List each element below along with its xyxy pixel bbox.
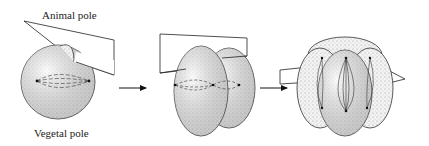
stage-2-two-cell [160,34,255,136]
stage-1-zygote [21,21,114,119]
vegetal-pole-label: Vegetal pole [34,127,89,139]
cleavage-diagram [0,0,429,146]
animal-pole-label: Animal pole [42,9,97,21]
stage-3-four-cell [280,37,405,136]
